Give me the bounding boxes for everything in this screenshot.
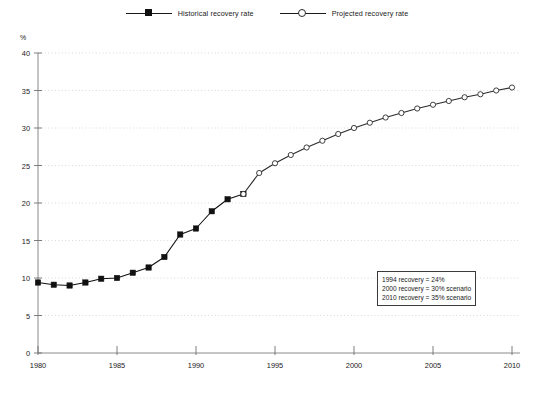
y-tick-label: 0 bbox=[8, 349, 30, 358]
annotation-line-3: 2010 recovery = 35% scenario bbox=[382, 293, 471, 302]
y-tick-label: 25 bbox=[8, 161, 30, 170]
plot-area bbox=[0, 0, 534, 395]
y-tick-label: 30 bbox=[8, 124, 30, 133]
x-tick-label: 2000 bbox=[334, 361, 374, 370]
y-tick-label: 35 bbox=[8, 86, 30, 95]
x-tick-label: 1990 bbox=[176, 361, 216, 370]
recovery-rate-chart: Historical recovery rate Projected recov… bbox=[0, 0, 534, 395]
scenario-annotation-box: 1994 recovery = 24% 2000 recovery = 30% … bbox=[377, 271, 476, 306]
y-tick-label: 10 bbox=[8, 274, 30, 283]
x-tick-label: 1995 bbox=[255, 361, 295, 370]
annotation-line-1: 1994 recovery = 24% bbox=[382, 275, 471, 284]
series-markers bbox=[35, 85, 514, 288]
series-lines bbox=[38, 88, 512, 286]
y-tick-label: 20 bbox=[8, 199, 30, 208]
y-tick-label: 15 bbox=[8, 236, 30, 245]
x-tick-label: 2010 bbox=[492, 361, 532, 370]
x-tick-label: 1985 bbox=[97, 361, 137, 370]
x-tick-label: 2005 bbox=[413, 361, 453, 370]
annotation-line-2: 2000 recovery = 30% scenario bbox=[382, 284, 471, 293]
y-tick-label: 5 bbox=[8, 311, 30, 320]
y-tick-label: 40 bbox=[8, 49, 30, 58]
x-tick-label: 1980 bbox=[18, 361, 58, 370]
axis-ticks bbox=[34, 53, 512, 355]
